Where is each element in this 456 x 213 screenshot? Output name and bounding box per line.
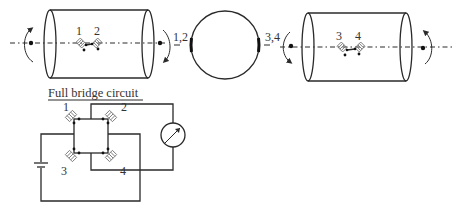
- battery-icon: [34, 163, 48, 167]
- left-shaft-end-dot: [29, 41, 33, 45]
- gauge-label-4: 4: [355, 29, 361, 43]
- strain-gauge-2-icon: [92, 38, 102, 48]
- bridge-label-4: 4: [120, 164, 126, 178]
- bridge-label-1: 1: [63, 100, 69, 114]
- right-shaft: 3 4: [280, 13, 452, 81]
- gauge-label-1: 1: [76, 24, 82, 38]
- strain-gauge-3-icon: [337, 42, 347, 52]
- bridge-gauge-4-icon: [105, 150, 116, 161]
- bridge-square: [74, 119, 108, 153]
- cross-section-label-left: 1,2: [173, 30, 188, 44]
- bridge-label-3: 3: [61, 164, 67, 178]
- torsion-strain-gauge-diagram: 1 2 1,2 3,4: [0, 0, 456, 213]
- bridge-title: Full bridge circuit: [48, 86, 139, 100]
- strain-gauge-4-icon: [355, 42, 365, 52]
- torque-arrow-icon: [24, 29, 33, 62]
- cross-section-label-right: 3,4: [265, 30, 280, 44]
- full-bridge-circuit: Full bridge circuit 1 2 3 4: [34, 86, 185, 201]
- bridge-gauge-2-icon: [105, 110, 116, 121]
- shaft-cross-section: 1,2 3,4: [173, 11, 280, 79]
- galvanometer-icon: [161, 123, 185, 147]
- wire-bottom-galvanometer: [91, 147, 173, 170]
- bridge-label-2: 2: [121, 100, 127, 114]
- cross-section-circle: [191, 11, 259, 79]
- bridge-gauge-3-icon: [65, 150, 76, 161]
- torque-arrow-icon: [163, 30, 170, 61]
- torque-arrow-icon: [425, 32, 432, 64]
- gauge-label-2: 2: [94, 24, 100, 38]
- left-shaft: 1 2: [10, 10, 170, 78]
- gauge-label-3: 3: [336, 29, 342, 43]
- strain-gauge-1-icon: [76, 38, 86, 48]
- left-shaft-end-ellipse: [44, 10, 56, 78]
